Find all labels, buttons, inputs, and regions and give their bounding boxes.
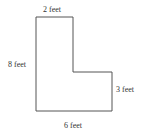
label-right-height: 3 feet [116, 86, 134, 94]
label-left-height: 8 feet [8, 61, 26, 69]
label-top-width: 2 feet [43, 6, 61, 14]
l-shape-outline [36, 17, 112, 111]
label-bottom-width: 6 feet [64, 122, 82, 130]
